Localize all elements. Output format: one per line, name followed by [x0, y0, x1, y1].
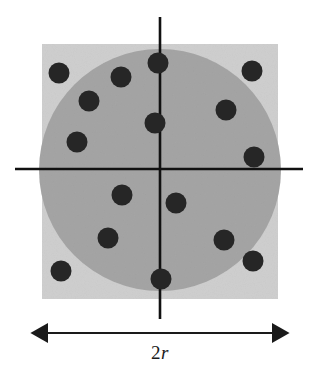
scatter-point: [242, 61, 263, 82]
scatter-point: [67, 132, 88, 153]
dimension-label-number: 2: [151, 342, 161, 363]
scatter-point: [148, 53, 169, 74]
dimension-label-symbol: r: [161, 342, 169, 363]
geometry-diagram: [0, 0, 316, 373]
scatter-point: [151, 269, 172, 290]
scatter-point: [214, 230, 235, 251]
scatter-point: [49, 63, 70, 84]
scatter-point: [51, 261, 72, 282]
scatter-point: [243, 251, 264, 272]
scatter-point: [79, 91, 100, 112]
scatter-point: [216, 100, 237, 121]
scatter-point: [98, 228, 119, 249]
scatter-point: [145, 113, 166, 134]
scatter-point: [244, 147, 265, 168]
dimension-label-2r: 2r: [120, 342, 200, 364]
scatter-point: [112, 185, 133, 206]
scatter-point: [166, 193, 187, 214]
scatter-point: [111, 67, 132, 88]
figure-canvas: 2r: [0, 0, 316, 373]
